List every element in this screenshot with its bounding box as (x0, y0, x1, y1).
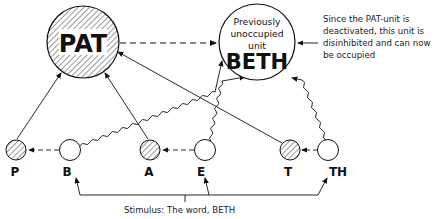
unit-t-label: T (284, 165, 293, 179)
edge-p-pat (17, 73, 61, 139)
edge-e-beth (210, 77, 246, 141)
unit-e-label: E (197, 165, 205, 179)
unit-t: T (280, 140, 300, 179)
unit-a-label: A (144, 165, 154, 179)
edge-th-beth (292, 78, 326, 140)
beth-line-2: unoccupied (230, 28, 283, 39)
edge-a-pat (105, 73, 148, 139)
stimulus-to-b (76, 178, 80, 195)
unit-b: B (60, 140, 81, 180)
beth-line-1: Previously (234, 16, 281, 27)
unit-p: P (6, 140, 26, 179)
stimulus-to-e (205, 178, 209, 195)
unit-pat-label: PAT (59, 30, 108, 58)
unit-e: E (195, 140, 216, 180)
unit-b-label: B (62, 165, 71, 179)
unit-beth-label: BETH (226, 50, 288, 74)
annotation-text: Since the PAT-unit is deactivated, this … (323, 13, 443, 61)
edge-b-beth (80, 61, 222, 146)
unit-p-label: P (11, 165, 20, 179)
stimulus-label: Stimulus: The word, BETH (124, 205, 235, 215)
unit-th: TH (318, 140, 348, 180)
unit-pat: PAT (47, 6, 119, 78)
unit-a: A (140, 140, 160, 179)
unit-beth: Previously unoccupied unit BETH (219, 4, 295, 80)
unit-th-label: TH (329, 165, 347, 179)
stimulus-to-th (318, 178, 327, 195)
